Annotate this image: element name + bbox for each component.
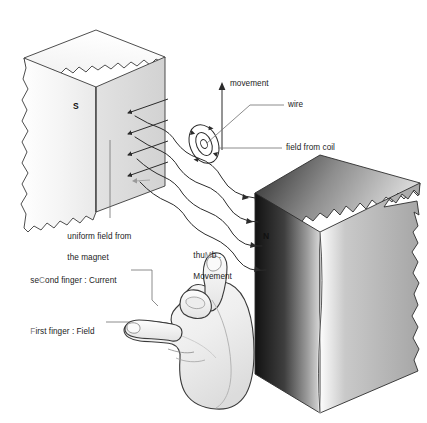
south-magnet [21, 30, 165, 232]
wire-label: wire [288, 100, 303, 111]
second-finger-current-label: seCond finger : Current [21, 265, 117, 297]
south-magnet-pole-face [96, 57, 165, 212]
movement-arrow [219, 82, 226, 150]
leader-second-finger [131, 270, 158, 306]
north-magnet [255, 155, 420, 413]
wire-cross-section [199, 139, 208, 150]
first-finger-nail [127, 323, 140, 333]
first-finger-suffix: irst finger : Field [35, 327, 94, 336]
thumb-suffix: b : [212, 251, 221, 260]
first-finger-field-label: First finger : Field [21, 316, 95, 348]
second-finger-prefix: se [30, 276, 39, 285]
south-magnet-left-face [21, 58, 96, 232]
uniform-field-line1: uniform field from [67, 232, 131, 241]
movement-label: movement [230, 79, 269, 90]
field-from-coil-label: field from coil [286, 143, 335, 154]
thumb-prefix: thu [193, 251, 205, 260]
south-pole-label: S [73, 101, 79, 111]
leader-wire [207, 105, 284, 143]
physics-diagram-svg [0, 0, 427, 423]
north-magnet-side-face [320, 183, 420, 413]
thumb-line2: Movement [193, 272, 232, 281]
thumb-movement-label: thuMb : Movement [184, 240, 232, 293]
uniform-field-line2: the magnet [67, 253, 108, 262]
north-pole-label: N [263, 231, 269, 241]
second-finger-suffix: ond finger : Current [45, 276, 117, 285]
north-magnet-front-face [255, 193, 320, 413]
coil-inner-ring [193, 130, 216, 158]
thumb-highlight-letter: M [205, 251, 212, 260]
diagram-canvas: S N movement wire field from coil unifor… [0, 0, 427, 423]
